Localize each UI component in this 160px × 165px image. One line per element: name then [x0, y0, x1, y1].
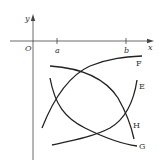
diagram-canvas: y O a b x F E H G: [0, 0, 160, 165]
tick-label-b: b: [124, 46, 129, 55]
y-axis-arrow-icon: [31, 14, 35, 21]
y-axis-label: y: [24, 14, 30, 23]
curve-label-g: G: [139, 142, 145, 151]
curves: [42, 56, 142, 146]
curve-label-e: E: [139, 82, 145, 91]
origin-label: O: [25, 44, 32, 53]
x-axis-label: x: [148, 43, 153, 52]
curve-h: [50, 66, 134, 139]
curve-label-h: H: [133, 121, 140, 130]
tick-label-a: a: [55, 46, 60, 55]
curve-label-f: F: [136, 59, 142, 68]
